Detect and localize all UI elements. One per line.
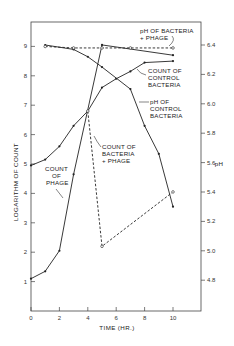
- y2-tick-label: 6.0: [207, 101, 216, 107]
- y-tick-label: 6: [24, 132, 28, 138]
- annotation-text: OF: [52, 172, 61, 179]
- annotation-count-control-bacteria: COUNT OF CONTROL BACTERIA: [137, 67, 182, 88]
- data-point: [44, 45, 47, 48]
- annotation-count-bacteria-phage: COUNT OF BACTERIA + PHAGE: [94, 136, 136, 164]
- annotation-text: pH OF: [150, 98, 169, 105]
- annotation-text: COUNT OF: [102, 143, 136, 150]
- y2-tick-label: 6.2: [207, 71, 216, 77]
- annotation-text: BACTERIA: [150, 112, 183, 119]
- data-point: [101, 86, 103, 88]
- series-line: [88, 111, 173, 246]
- y-tick-label: 8: [24, 73, 28, 79]
- growth-ph-chart: 0246810 123456789 4.85.05.25.45.65.86.06…: [0, 0, 234, 346]
- data-point: [30, 278, 32, 280]
- y2-axis-title: pH: [215, 160, 224, 167]
- y-tick-label: 3: [24, 220, 28, 226]
- y2-tick-label: 5.0: [207, 248, 216, 254]
- series-count-of-bacteria-phage: [87, 110, 175, 248]
- data-point: [101, 66, 103, 68]
- annotation-text: CONTROL: [150, 105, 182, 112]
- y-tick-label: 7: [24, 102, 28, 108]
- data-point: [144, 125, 146, 127]
- data-point: [101, 245, 104, 248]
- y2-tick-label: 5.2: [207, 218, 216, 224]
- series-line: [45, 46, 173, 47]
- annotation-text: BACTERIA: [102, 150, 135, 157]
- x-tick-label: 10: [170, 315, 177, 321]
- annotation-text: BACTERIA: [148, 81, 181, 88]
- data-point: [101, 47, 104, 50]
- data-point: [144, 61, 146, 63]
- y-axis-title: LOGARITHM OF COUNT: [12, 143, 19, 221]
- data-point: [158, 153, 160, 155]
- y-tick-label: 1: [24, 279, 28, 285]
- annotation-text: PHAGE: [46, 179, 69, 186]
- annotation-text: + PHAGE: [102, 157, 130, 164]
- y2-tick-label: 4.8: [207, 277, 216, 283]
- data-point: [129, 88, 131, 90]
- data-point: [44, 270, 46, 272]
- data-point: [58, 145, 60, 147]
- x-tick-label: 2: [58, 315, 62, 321]
- y2-tick-label: 6.4: [207, 42, 216, 48]
- data-point: [172, 60, 174, 62]
- x-tick-label: 0: [29, 315, 33, 321]
- annotation-text: COUNT OF: [148, 67, 182, 74]
- y-tick-label: 5: [24, 161, 28, 167]
- y-tick-label: 2: [24, 249, 28, 255]
- x-tick-label: 8: [143, 315, 147, 321]
- y-tick-label: 4: [24, 190, 28, 196]
- y-tick-label: 9: [24, 43, 28, 49]
- annotation-arrow: [94, 136, 101, 147]
- data-point: [87, 56, 89, 58]
- annotation-arrow: [137, 69, 146, 75]
- x-tick-label: 4: [86, 315, 90, 321]
- data-point: [172, 47, 175, 50]
- data-point: [44, 158, 46, 160]
- data-point: [58, 250, 60, 252]
- annotation-count-phage: COUNT OF PHAGE: [45, 165, 69, 198]
- annotation-arrow: [56, 189, 63, 198]
- data-point: [30, 164, 32, 166]
- annotation-text: COUNT: [45, 165, 68, 172]
- data-point: [172, 54, 174, 56]
- data-point: [73, 125, 75, 127]
- data-point: [72, 47, 75, 50]
- annotation-text: pH OF BACTERIA: [140, 27, 194, 34]
- y-axis-ticks: 123456789: [24, 43, 35, 284]
- data-point: [101, 44, 103, 46]
- data-point: [87, 110, 90, 113]
- annotation-text: CONTROL: [148, 74, 180, 81]
- x-axis-title: TIME (HR.): [99, 324, 134, 331]
- data-point: [129, 70, 131, 72]
- x-tick-label: 6: [115, 315, 119, 321]
- data-point: [172, 206, 174, 208]
- annotation-text: + PHAGE: [140, 34, 168, 41]
- y2-tick-label: 5.4: [207, 189, 216, 195]
- annotation-arrow: [169, 36, 173, 46]
- x-axis-ticks: 0246810: [29, 307, 177, 321]
- annotation-ph-control-bacteria: pH OF CONTROL BACTERIA: [139, 98, 183, 119]
- y2-tick-label: 5.8: [207, 130, 216, 136]
- annotation-ph-bacteria-phage: pH OF BACTERIA + PHAGE: [140, 27, 194, 46]
- data-point: [129, 47, 132, 50]
- data-point: [73, 173, 75, 175]
- data-point: [172, 191, 175, 194]
